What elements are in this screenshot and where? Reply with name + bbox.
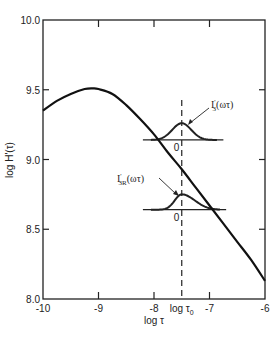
upper-bell-annotation: 0 I'3(ωτ): [143, 98, 233, 153]
chart: -10-9-8log τ0-7-610.09.59.08.58.0 0 I'3(…: [0, 0, 280, 340]
upper-zero-label: 0: [174, 142, 180, 153]
axis-ticks: [43, 20, 265, 299]
main-data-curve: [43, 88, 265, 281]
y-tick-label: 10.0: [21, 15, 41, 26]
plot-frame: [43, 20, 265, 299]
lower-zero-label: 0: [174, 212, 180, 223]
lower-arrowhead-icon: [173, 190, 179, 196]
tick-labels: -10-9-8log τ0-7-610.09.59.08.58.0: [21, 15, 270, 316]
x-tick-label: -8: [150, 303, 159, 314]
x-tick-label: -6: [261, 303, 270, 314]
upper-arrow-line: [190, 108, 209, 123]
y-axis-title: log H'(τ): [4, 142, 15, 178]
y-tick-label: 8.5: [26, 224, 40, 235]
y-tick-label: 9.5: [26, 85, 40, 96]
x-tick-label: -9: [94, 303, 103, 314]
lower-arrow-line: [159, 178, 176, 194]
x-tick-label: log τ0: [170, 303, 194, 316]
upper-arrowhead-icon: [188, 119, 193, 125]
lower-annotation-label: I'3R(ωτ): [117, 172, 144, 187]
y-tick-label: 8.0: [26, 294, 40, 305]
x-tick-label: -7: [205, 303, 214, 314]
x-axis-title: log τ: [144, 315, 164, 326]
lower-bell-annotation: 0 I'3R(ωτ): [117, 172, 226, 223]
upper-annotation-label: I'3(ωτ): [211, 98, 233, 113]
y-tick-label: 9.0: [26, 155, 40, 166]
lower-bell-curve: [151, 194, 220, 209]
upper-bell-curve: [151, 123, 217, 140]
